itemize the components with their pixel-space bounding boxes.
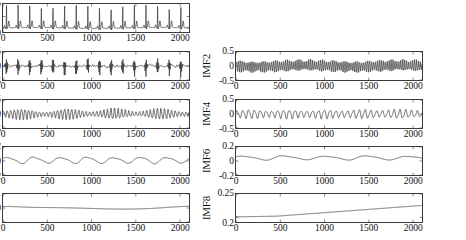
- signal-trace: [3, 194, 189, 222]
- x-tick-label: 2000: [404, 223, 423, 234]
- y-tick-labels: 0.250.2: [213, 188, 235, 228]
- x-tick-label: 1500: [359, 223, 378, 234]
- plot-panel-imf4: IMF40.50-0.50500100015002000: [200, 94, 423, 140]
- x-tick-label: 500: [273, 176, 287, 187]
- x-tick-label: 2000: [171, 176, 190, 187]
- x-tick-label: 1500: [126, 223, 145, 234]
- x-tick-label: 500: [273, 129, 287, 140]
- y-axis-label: IMF8: [200, 188, 213, 228]
- y-tick-label: -0.5: [219, 78, 234, 84]
- y-tick-label: 0.5: [0, 0, 1, 6]
- plot-area-signal: [2, 3, 190, 33]
- plot-area-imf4: [235, 99, 423, 129]
- x-tick-labels: 0500100015002000: [235, 176, 423, 187]
- signal-trace: [3, 147, 189, 175]
- x-tick-label: 2000: [171, 223, 190, 234]
- x-tick-label: 0: [234, 129, 239, 140]
- signal-trace: [236, 194, 422, 222]
- x-tick-label: 500: [40, 223, 54, 234]
- x-tick-label: 1500: [126, 129, 145, 140]
- y-tick-label: 0: [229, 63, 234, 69]
- y-tick-label: 0.25: [217, 190, 234, 196]
- signal-trace: [236, 147, 422, 175]
- emd-decomposition-figure: Signal0.500500100015002000IMF20.50-0.505…: [0, 0, 466, 240]
- x-tick-label: 1000: [82, 33, 101, 44]
- plot-area-imf6: [235, 146, 423, 176]
- x-tick-label: 1500: [359, 129, 378, 140]
- x-tick-label: 1500: [359, 176, 378, 187]
- x-tick-label: 0: [234, 176, 239, 187]
- x-tick-label: 0: [1, 223, 6, 234]
- signal-trace: [236, 52, 422, 80]
- y-tick-label: 0.5: [0, 96, 1, 102]
- x-tick-labels: 0500100015002000: [2, 176, 190, 187]
- x-tick-label: 500: [40, 129, 54, 140]
- y-tick-labels: 0.50-0.5: [213, 46, 235, 86]
- signal-trace: [3, 4, 189, 32]
- x-tick-label: 1000: [82, 81, 101, 92]
- y-tick-label: -0.2: [219, 173, 234, 179]
- plot-panel-imf6: IMF60.20-0.20500100015002000: [200, 141, 423, 187]
- plot-panel-imf5: IMF50.20-0.20500100015002000: [0, 141, 190, 187]
- x-tick-labels: 0500100015002000: [2, 223, 190, 234]
- y-axis-label: IMF2: [200, 46, 213, 86]
- x-tick-label: 1000: [82, 223, 101, 234]
- y-tick-labels: 0.50-0.5: [213, 94, 235, 134]
- x-tick-label: 2000: [171, 81, 190, 92]
- y-tick-label: 0.2: [0, 143, 1, 149]
- plot-panel-imf7: IMF70.10-0.10500100015002000: [0, 188, 190, 234]
- signal-trace: [3, 52, 189, 80]
- x-tick-label: 1000: [315, 129, 334, 140]
- x-tick-labels: 0500100015002000: [235, 223, 423, 234]
- x-tick-label: 2000: [404, 176, 423, 187]
- signal-trace: [236, 100, 422, 128]
- x-tick-label: 2000: [404, 81, 423, 92]
- x-tick-label: 2000: [171, 129, 190, 140]
- plot-area-imf2: [235, 51, 423, 81]
- y-tick-label: 0: [0, 158, 1, 164]
- x-tick-label: 500: [40, 176, 54, 187]
- plot-area-imf1: [2, 51, 190, 81]
- x-tick-label: 1000: [82, 129, 101, 140]
- x-tick-label: 1000: [315, 176, 334, 187]
- x-tick-label: 2000: [171, 33, 190, 44]
- x-tick-label: 500: [273, 81, 287, 92]
- plot-panel-signal: Signal0.500500100015002000: [0, 0, 190, 44]
- x-tick-label: 0: [234, 223, 239, 234]
- y-tick-label: 0: [0, 205, 1, 211]
- x-tick-label: 0: [1, 33, 6, 44]
- y-tick-label: 0.5: [222, 48, 234, 54]
- x-tick-label: 1500: [126, 33, 145, 44]
- x-tick-label: 1500: [359, 81, 378, 92]
- y-tick-label: 0: [0, 63, 1, 69]
- y-axis-label: IMF4: [200, 94, 213, 134]
- plot-panel-imf1: IMF10.50-0.50500100015002000: [0, 46, 190, 92]
- x-tick-label: 1000: [82, 176, 101, 187]
- x-tick-labels: 0500100015002000: [2, 129, 190, 140]
- x-tick-label: 0: [234, 81, 239, 92]
- signal-trace: [3, 100, 189, 128]
- x-tick-label: 2000: [404, 129, 423, 140]
- x-tick-label: 500: [40, 81, 54, 92]
- plot-panel-imf8: IMF80.250.20500100015002000: [200, 188, 423, 234]
- plot-area-imf3: [2, 99, 190, 129]
- x-tick-label: 500: [273, 223, 287, 234]
- y-tick-label: 0.2: [222, 143, 234, 149]
- y-tick-label: 0: [229, 111, 234, 117]
- x-tick-label: 1500: [126, 81, 145, 92]
- y-tick-labels: 0.20-0.2: [213, 141, 235, 181]
- plot-area-imf7: [2, 193, 190, 223]
- x-tick-label: 0: [1, 129, 6, 140]
- x-tick-label: 1000: [315, 223, 334, 234]
- y-tick-label: 0.1: [0, 190, 1, 196]
- y-tick-label: 0: [0, 111, 1, 117]
- plot-panel-imf3: IMF30.50-0.50500100015002000: [0, 94, 190, 140]
- y-tick-label: 0: [229, 158, 234, 164]
- y-tick-label: 0.5: [222, 96, 234, 102]
- x-tick-labels: 0500100015002000: [2, 33, 190, 44]
- y-axis-label: IMF6: [200, 141, 213, 181]
- x-tick-label: 500: [40, 33, 54, 44]
- x-tick-label: 0: [1, 176, 6, 187]
- plot-area-imf8: [235, 193, 423, 223]
- x-tick-label: 1500: [126, 176, 145, 187]
